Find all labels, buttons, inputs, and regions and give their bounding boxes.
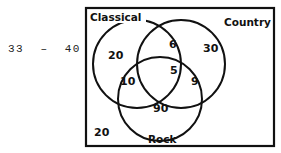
region-classical-rock: 10 bbox=[120, 75, 136, 88]
label-classical: Classical bbox=[90, 11, 141, 23]
region-classical-only: 20 bbox=[108, 49, 124, 62]
region-classical-country: 6 bbox=[169, 38, 177, 51]
circle-rock bbox=[118, 57, 202, 141]
region-rock-only: 90 bbox=[153, 102, 169, 115]
label-country: Country bbox=[224, 16, 271, 28]
label-rock: Rock bbox=[148, 133, 178, 145]
region-outside: 20 bbox=[94, 126, 110, 139]
region-country-only: 30 bbox=[203, 42, 219, 55]
region-all-three: 5 bbox=[170, 64, 178, 77]
venn-diagram: Classical Country Rock 20 30 90 6 10 9 5… bbox=[0, 0, 281, 153]
region-country-rock: 9 bbox=[191, 75, 199, 88]
